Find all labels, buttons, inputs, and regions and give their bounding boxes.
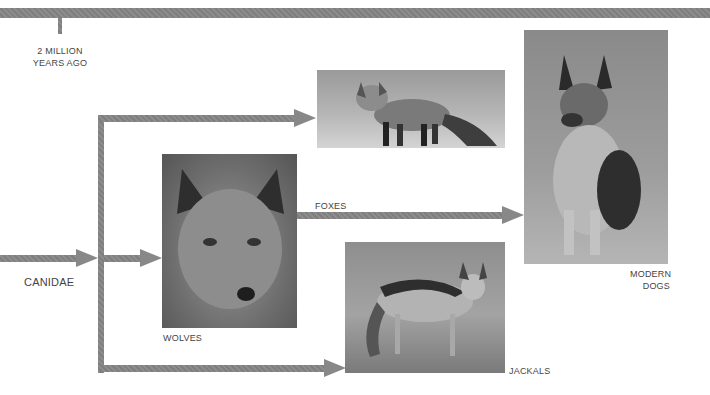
root-arrowhead — [76, 249, 98, 267]
fox-photo — [317, 70, 505, 148]
wolf-photo — [162, 154, 297, 328]
jackal-photo — [345, 242, 505, 373]
trunk-line — [98, 115, 104, 373]
dog-arrowhead — [502, 206, 524, 224]
wolf-arrow-shaft — [104, 255, 140, 262]
root-label: CANIDAE — [24, 276, 74, 288]
timeline-bar — [0, 8, 710, 18]
fox-arrow-shaft — [98, 115, 296, 122]
timeline-tick — [58, 18, 62, 34]
wolf-icon — [162, 154, 297, 328]
fox-icon — [317, 70, 505, 148]
dog-label: MODERN DOGS — [630, 268, 670, 292]
fox-label: FOXES — [315, 200, 347, 212]
root-arrow-shaft — [0, 255, 76, 262]
german-shepherd-photo — [524, 30, 668, 264]
jackal-arrowhead — [324, 359, 346, 377]
jackal-label: JACKALS — [509, 365, 550, 377]
jackal-arrow-shaft — [98, 365, 324, 372]
dog-arrow-shaft — [297, 212, 502, 219]
wolf-arrowhead — [140, 249, 162, 267]
jackal-icon — [345, 242, 505, 373]
wolf-label: WOLVES — [163, 332, 202, 344]
dog-icon — [524, 30, 668, 264]
timeline-label: 2 MILLION YEARS AGO — [30, 45, 90, 69]
fox-arrowhead — [294, 109, 316, 127]
